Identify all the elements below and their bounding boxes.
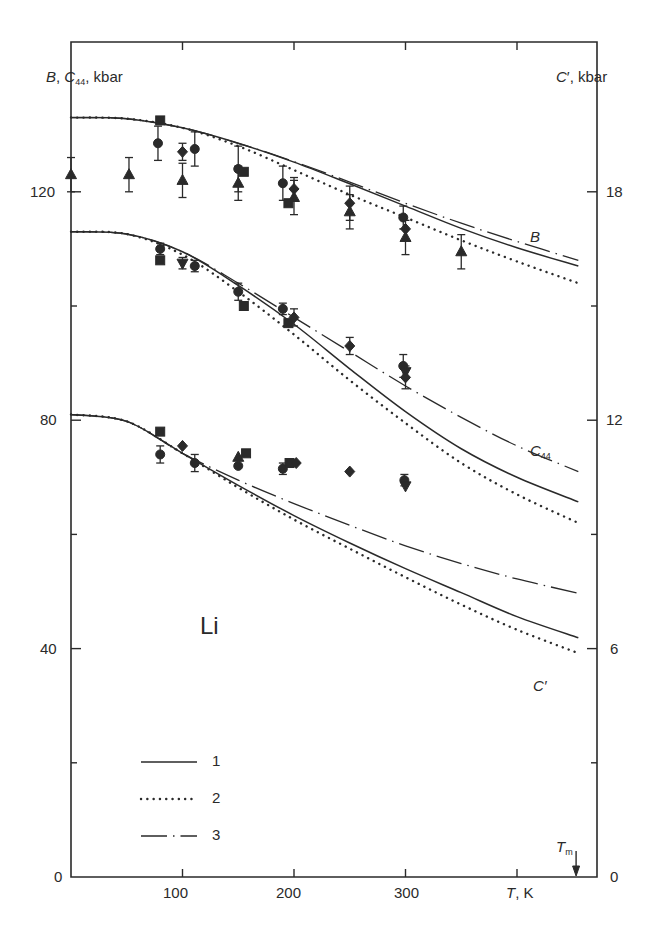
left-tick-label: 40 (40, 640, 57, 657)
axis-subscript-44: 44 (75, 77, 85, 87)
triangle-marker (177, 174, 188, 184)
left-tick-label: 80 (40, 411, 57, 428)
tm-symbol: T (556, 838, 565, 855)
left-tick-label: 120 (30, 183, 55, 200)
axis-symbol-c-prime: C (556, 68, 567, 85)
tm-subscript: m (565, 847, 573, 857)
square-marker (156, 116, 165, 125)
triangle-marker (456, 246, 467, 256)
axis-unit-right: , kbar (570, 68, 608, 85)
circle-marker (234, 461, 243, 470)
diamond-marker (345, 340, 355, 351)
square-marker (239, 302, 248, 311)
x-tick-label: 200 (276, 884, 301, 901)
theory-curves (71, 118, 578, 654)
triangle-marker (66, 169, 77, 179)
triangle-marker (400, 231, 411, 241)
curve-c44-dash-dot (71, 232, 578, 472)
diamond-marker (178, 440, 188, 451)
square-marker (242, 449, 251, 458)
left-tick-label: 0 (54, 868, 62, 885)
circle-marker (190, 262, 199, 271)
square-marker (284, 199, 293, 208)
axis-symbol-t: T (506, 884, 515, 901)
right-tick-label: 12 (606, 411, 623, 428)
triangle-marker (123, 169, 134, 179)
material-label: Li (200, 612, 219, 640)
legend-label-2: 2 (212, 789, 220, 806)
curve-c44-solid (71, 232, 578, 502)
triangle-down-marker (177, 259, 188, 269)
circle-marker (278, 304, 287, 313)
circle-marker (190, 144, 199, 153)
x-axis-title: T, K (506, 884, 534, 901)
diamond-marker (401, 372, 411, 383)
axis-symbol-b: B (46, 68, 56, 85)
curve-subscript-44: 44 (541, 451, 551, 461)
x-tick-label: 300 (394, 884, 419, 901)
right-tick-label: 18 (606, 183, 623, 200)
plot-frame (71, 42, 597, 877)
legend-swatches (141, 762, 197, 836)
axis-symbol-c: C (64, 68, 75, 85)
curve-c-prime-solid (71, 414, 578, 637)
circle-marker (156, 244, 165, 253)
circle-marker (234, 287, 243, 296)
triangle-marker (344, 206, 355, 216)
arrow-head-icon (573, 866, 580, 876)
triangle-down-marker (400, 482, 411, 492)
curve-c-prime-dash-dot (71, 414, 578, 593)
curve-label-c44: C44 (530, 442, 551, 461)
square-marker (156, 427, 165, 436)
right-tick-label: 6 (610, 640, 618, 657)
curve-label-b: B (530, 228, 540, 245)
circle-marker (190, 459, 199, 468)
melting-point-arrow (573, 851, 580, 876)
legend-label-3: 3 (212, 826, 220, 843)
circle-marker (278, 179, 287, 188)
right-axis-title: C′, kbar (556, 68, 607, 85)
axis-ticks (71, 42, 597, 877)
curve-label-c-prime: C′ (533, 677, 547, 694)
curve-b-solid (71, 118, 578, 266)
axis-unit-x: , K (515, 884, 533, 901)
axis-unit-left: , kbar (85, 68, 123, 85)
diamond-marker (345, 466, 355, 477)
curve-b-dotted (71, 118, 578, 284)
curve-symbol-c: C (530, 442, 541, 459)
chart-canvas (0, 0, 661, 946)
diamond-marker (178, 146, 188, 157)
square-marker (156, 256, 165, 265)
triangle-marker (233, 177, 244, 187)
curve-c44-dotted (71, 232, 578, 523)
x-tick-label: 100 (163, 884, 188, 901)
curve-c-prime-dotted (71, 414, 578, 653)
circle-marker (156, 450, 165, 459)
square-marker (239, 167, 248, 176)
right-tick-label: 0 (610, 868, 618, 885)
melting-point-label: Tm (556, 838, 573, 857)
left-axis-title: B, C44, kbar (46, 68, 123, 87)
axes-box (71, 42, 597, 877)
legend-label-1: 1 (212, 752, 220, 769)
circle-marker (153, 139, 162, 148)
